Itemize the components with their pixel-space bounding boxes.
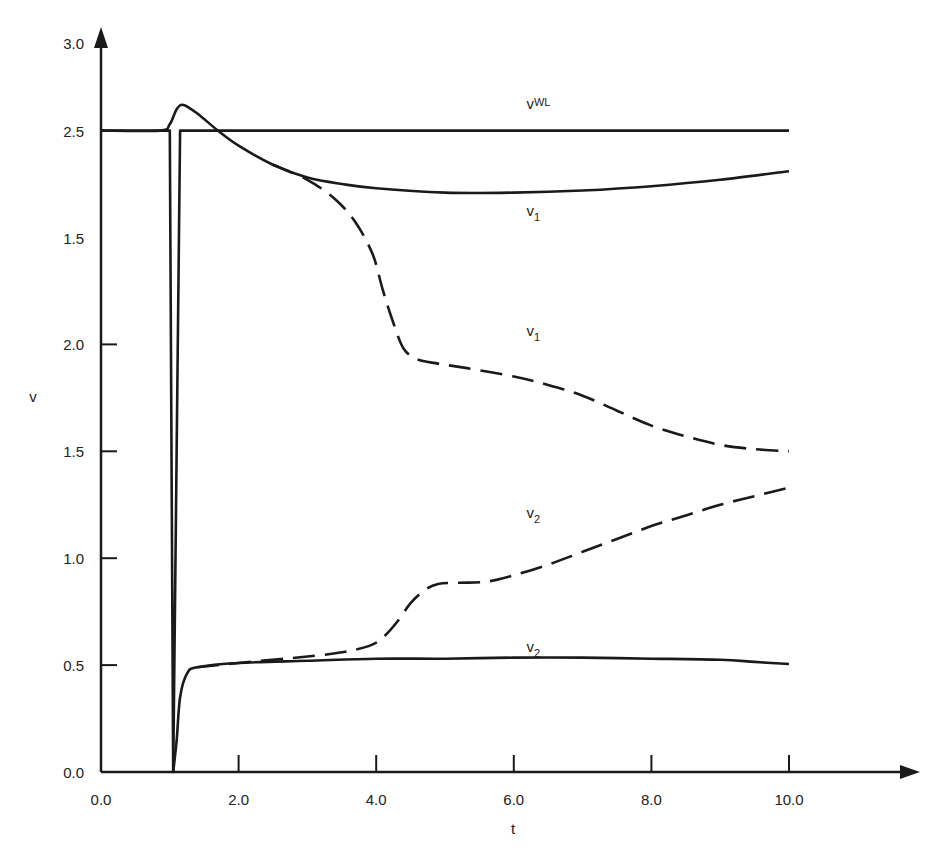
x-tick-label: 2.0 <box>228 791 249 808</box>
x-axis-title: t <box>511 820 516 837</box>
y-tick-label: 0.0 <box>63 764 84 781</box>
x-tick-label: 4.0 <box>366 791 387 808</box>
x-axis-arrow-icon <box>900 765 920 779</box>
y-axis-arrow-icon <box>94 27 108 48</box>
x-tick-label: 0.0 <box>91 791 112 808</box>
curve-label: v1 <box>526 322 540 343</box>
line-chart: 0.02.04.06.08.010.0 0.00.51.01.52.01.52.… <box>0 0 941 851</box>
y-tick-label: 1.5 <box>63 443 84 460</box>
y-ticks: 0.00.51.01.52.01.52.53.0 <box>63 35 117 781</box>
curve-label: v2 <box>526 638 540 659</box>
series-v-2-solid <box>173 657 789 772</box>
axes: 0.02.04.06.08.010.0 0.00.51.01.52.01.52.… <box>29 27 920 837</box>
y-tick-label: 0.5 <box>63 657 84 674</box>
x-tick-label: 6.0 <box>503 791 524 808</box>
y-tick-label: 2.0 <box>63 336 84 353</box>
x-tick-label: 10.0 <box>774 791 803 808</box>
curve-labels: vWLv1v1v2v2 <box>526 95 550 659</box>
y-tick-label: 3.0 <box>63 35 84 52</box>
x-ticks: 0.02.04.06.08.010.0 <box>91 755 804 808</box>
series-v-wl <box>101 131 789 772</box>
curve-label: v1 <box>526 202 540 223</box>
series-group <box>101 105 789 772</box>
y-tick-label: 2.5 <box>63 123 84 140</box>
series-v-1-solid <box>101 105 789 193</box>
curve-label: vWL <box>526 95 550 112</box>
series-v-2-dashed <box>197 488 789 668</box>
y-tick-label: 1.0 <box>63 550 84 567</box>
x-tick-label: 8.0 <box>641 791 662 808</box>
curve-label: v2 <box>526 504 540 525</box>
y-axis-title: v <box>29 388 37 405</box>
y-tick-label: 1.5 <box>63 230 84 247</box>
